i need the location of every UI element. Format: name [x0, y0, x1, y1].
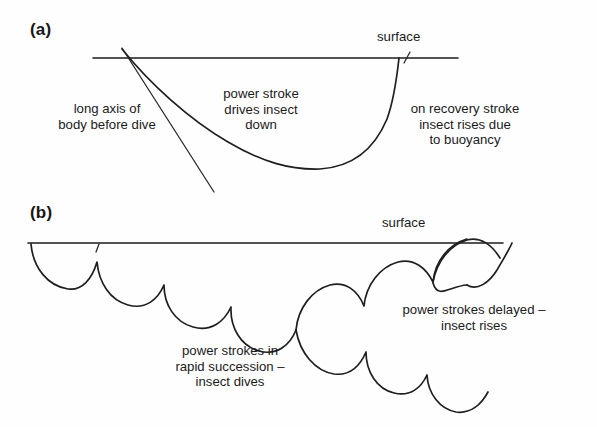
annotation-delayed-strokes: power strokes delayed – insect rises	[378, 302, 570, 333]
rise-path-b-link	[433, 283, 467, 291]
figure-diagram: (a) surface long axis of body before div…	[0, 0, 597, 427]
annotation-rapid-strokes-line-3: insect dives	[140, 374, 320, 390]
dive-path-b-lower	[296, 330, 488, 412]
panel-label-b: (b)	[30, 203, 52, 223]
rise-path-b-final	[467, 243, 512, 287]
annotation-long-axis-line-2: body before dive	[32, 117, 182, 133]
annotation-rapid-strokes: power strokes in rapid succession – inse…	[140, 343, 320, 390]
panel-label-a: (a)	[30, 20, 51, 40]
annotation-delayed-strokes-line-2: insect rises	[378, 318, 570, 334]
annotation-delayed-strokes-line-1: power strokes delayed –	[378, 302, 570, 318]
annotation-recovery-stroke: on recovery stroke insect rises due to b…	[383, 101, 547, 148]
surface-label-b: surface	[382, 215, 425, 231]
rise-path-b-arc	[433, 239, 500, 282]
dive-path-b-upper	[31, 244, 296, 352]
annotation-recovery-stroke-line-3: to buoyancy	[383, 132, 547, 148]
annotation-power-stroke-line-2: drives insect	[197, 102, 325, 118]
annotation-long-axis-line-1: long axis of	[32, 101, 182, 117]
annotation-power-stroke-line-1: power stroke	[197, 86, 325, 102]
annotation-power-stroke-line-3: down	[197, 117, 325, 133]
annotation-recovery-stroke-line-1: on recovery stroke	[383, 101, 547, 117]
surface-label-a: surface	[377, 29, 420, 45]
annotation-rapid-strokes-line-1: power strokes in	[140, 343, 320, 359]
stroke-tick-b	[96, 244, 99, 252]
annotation-power-stroke: power stroke drives insect down	[197, 86, 325, 133]
annotation-rapid-strokes-line-2: rapid succession –	[140, 359, 320, 375]
annotation-recovery-stroke-line-2: insect rises due	[383, 117, 547, 133]
annotation-long-axis: long axis of body before dive	[32, 101, 182, 132]
